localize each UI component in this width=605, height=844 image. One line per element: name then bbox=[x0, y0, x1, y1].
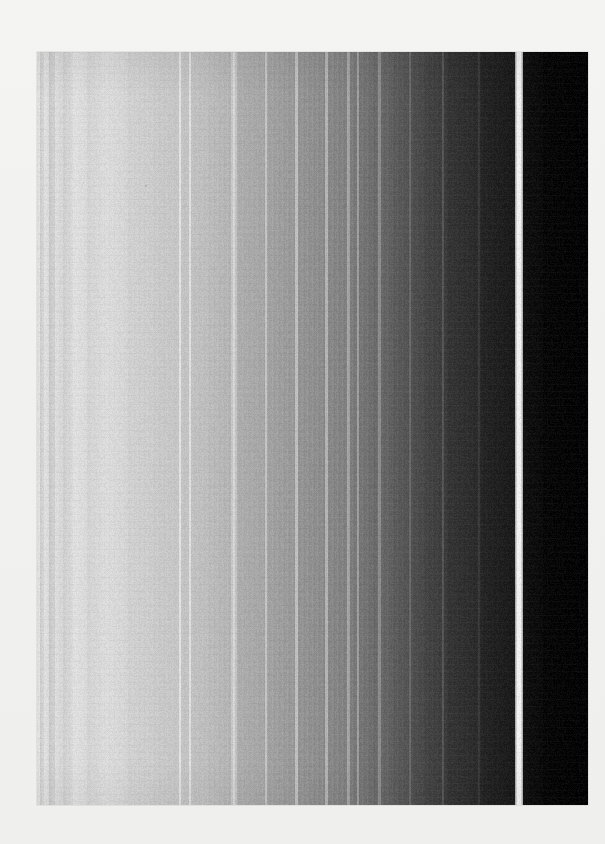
band-12 bbox=[183, 52, 207, 805]
band-13 bbox=[207, 52, 231, 805]
grayscale-gradient-plate bbox=[37, 52, 588, 805]
band-24 bbox=[447, 52, 481, 805]
band-19 bbox=[349, 52, 371, 805]
band-20 bbox=[371, 52, 391, 805]
separator-08 bbox=[357, 52, 359, 805]
separator-07 bbox=[347, 52, 350, 805]
separator-05 bbox=[295, 52, 298, 805]
screenshot-canvas bbox=[0, 0, 605, 844]
separator-10 bbox=[409, 52, 411, 805]
separator-11 bbox=[442, 52, 444, 805]
band-05 bbox=[55, 52, 63, 805]
band-07 bbox=[73, 52, 87, 805]
separator-06 bbox=[325, 52, 328, 805]
band-27 bbox=[523, 52, 543, 805]
separator-02 bbox=[189, 52, 191, 805]
band-25 bbox=[481, 52, 515, 805]
separator-04 bbox=[265, 52, 267, 805]
band-09 bbox=[105, 52, 127, 805]
band-08 bbox=[87, 52, 105, 805]
band-21 bbox=[391, 52, 407, 805]
band-28 bbox=[543, 52, 588, 805]
separator-09 bbox=[378, 52, 381, 805]
band-17 bbox=[297, 52, 323, 805]
band-16 bbox=[267, 52, 297, 805]
separator-12 bbox=[478, 52, 480, 805]
band-15 bbox=[237, 52, 267, 805]
band-10 bbox=[127, 52, 153, 805]
separator-03 bbox=[233, 52, 235, 805]
separator-01 bbox=[179, 52, 181, 805]
band-06 bbox=[63, 52, 73, 805]
bright-gap bbox=[515, 52, 523, 805]
